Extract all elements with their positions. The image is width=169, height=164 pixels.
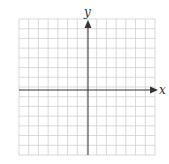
coordinate-plane: x y	[0, 0, 169, 164]
y-axis-label: y	[83, 5, 91, 19]
x-axis-label: x	[159, 83, 166, 97]
y-axis-arrow-icon	[85, 20, 92, 28]
grid-lines	[19, 19, 155, 155]
x-axis-arrow-icon	[150, 87, 158, 94]
